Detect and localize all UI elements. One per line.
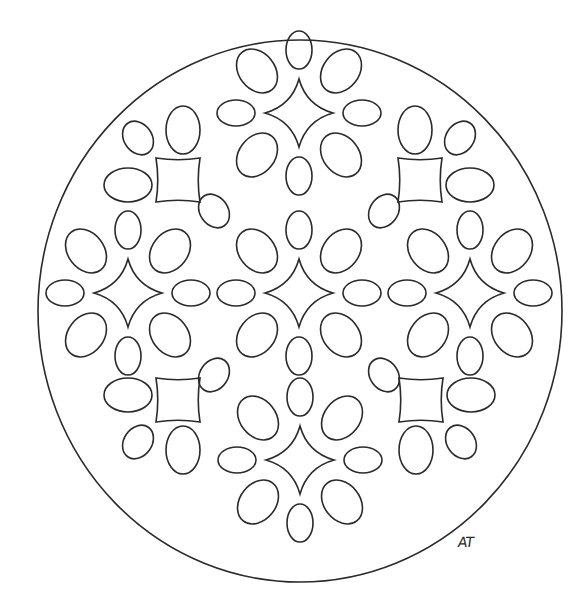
petal xyxy=(229,388,287,448)
petal xyxy=(218,447,256,473)
concave-square xyxy=(156,158,200,202)
petal xyxy=(228,41,286,101)
petal xyxy=(217,280,255,306)
petal xyxy=(57,305,115,365)
petal xyxy=(286,211,312,249)
petal xyxy=(313,388,371,448)
petal xyxy=(217,100,255,126)
outer-circle xyxy=(38,40,562,582)
petal xyxy=(141,305,199,365)
star-shape xyxy=(265,259,333,327)
petal xyxy=(286,337,312,375)
petal xyxy=(514,280,552,306)
petal xyxy=(344,447,382,473)
petal xyxy=(287,378,313,416)
star-shape xyxy=(94,259,162,327)
concave-square xyxy=(156,378,200,422)
flower-right xyxy=(388,211,552,375)
petal xyxy=(388,280,426,306)
petal xyxy=(457,337,483,375)
petal xyxy=(312,305,370,365)
link-petal xyxy=(362,352,406,398)
flower-bottom xyxy=(218,378,382,542)
petal xyxy=(286,31,312,69)
petal xyxy=(446,168,494,202)
petal xyxy=(343,280,381,306)
petal xyxy=(286,157,312,195)
petal xyxy=(312,221,370,281)
petal xyxy=(313,472,371,532)
petal xyxy=(483,305,541,365)
petal xyxy=(439,419,483,465)
petal xyxy=(166,106,200,154)
petal xyxy=(141,221,199,281)
star-shape xyxy=(436,259,504,327)
artist-signature: AT xyxy=(457,534,474,550)
petal xyxy=(228,125,286,185)
star-shape xyxy=(265,79,333,147)
corner-top-right xyxy=(398,106,494,202)
petal xyxy=(343,100,381,126)
petal xyxy=(115,211,141,249)
petal xyxy=(172,280,210,306)
petal xyxy=(287,504,313,542)
petal xyxy=(46,280,84,306)
petal xyxy=(399,221,457,281)
petal xyxy=(116,115,160,161)
petal xyxy=(166,426,200,474)
petal xyxy=(312,41,370,101)
petal xyxy=(116,419,160,465)
petal xyxy=(399,426,433,474)
mandala-drawing xyxy=(0,0,570,612)
petal xyxy=(228,305,286,365)
petal xyxy=(229,472,287,532)
petal xyxy=(312,125,370,185)
star-shape xyxy=(266,426,334,494)
corner-bottom-left xyxy=(104,378,200,474)
flower-top xyxy=(217,31,381,195)
petal xyxy=(57,221,115,281)
petal xyxy=(457,211,483,249)
corner-top-left xyxy=(104,106,200,202)
flower-left xyxy=(46,211,210,375)
petal xyxy=(399,305,457,365)
flower-center xyxy=(217,211,381,375)
petal xyxy=(104,378,152,412)
concave-square xyxy=(399,378,443,422)
petal xyxy=(447,378,495,412)
petal xyxy=(104,168,152,202)
petal xyxy=(438,115,482,161)
petal xyxy=(483,221,541,281)
petal xyxy=(228,221,286,281)
corner-bottom-right xyxy=(399,378,495,474)
concave-square xyxy=(398,158,442,202)
petal xyxy=(115,337,141,375)
petal xyxy=(398,106,432,154)
